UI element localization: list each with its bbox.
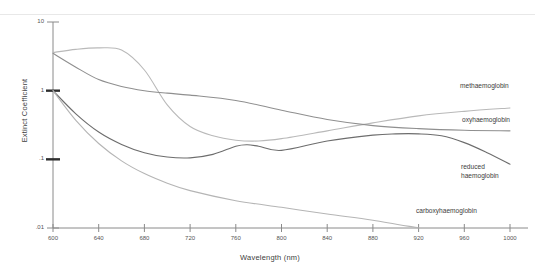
series-label-methaemoglobin: methaemoglobin <box>460 82 509 91</box>
x-axis-tick-label: 920 <box>399 235 439 241</box>
x-axis-tick-label: 960 <box>444 235 484 241</box>
x-axis-tick-label: 1000 <box>490 235 530 241</box>
series-line-carboxyhaemoglobin <box>53 91 419 228</box>
extinction-coefficient-plot <box>0 0 535 274</box>
x-axis-tick-label: 840 <box>307 235 347 241</box>
x-axis-tick-label: 600 <box>33 235 73 241</box>
y-axis-tick-label: 10 <box>20 18 44 24</box>
series-label-carboxyhaemoglobin: carboxyhaemoglobin <box>416 207 477 216</box>
series-line-reduced-haemoglobin <box>53 91 510 165</box>
x-axis-title: Wavelength (nm) <box>55 253 485 262</box>
series-label-reduced-haemoglobin: reducedhaemoglobin <box>461 163 499 180</box>
y-axis-tick-label: .01 <box>20 224 44 230</box>
series-line-methaemoglobin <box>53 48 510 141</box>
x-axis-tick-label: 800 <box>262 235 302 241</box>
series-line-oxyhaemoglobin <box>53 53 510 131</box>
x-axis-tick-label: 640 <box>79 235 119 241</box>
series-label-line-1: reduced <box>461 163 499 172</box>
x-axis-tick-label: 880 <box>353 235 393 241</box>
y-axis-title: Extinct Coefficient <box>20 46 29 176</box>
series-label-line-2: haemoglobin <box>461 172 499 181</box>
x-axis-tick-label: 680 <box>124 235 164 241</box>
x-axis-tick-label: 720 <box>170 235 210 241</box>
chart-figure: 101.1.01 6006406807207608008408809209601… <box>0 0 535 274</box>
x-axis-tick-label: 760 <box>216 235 256 241</box>
series-label-oxyhaemoglobin: oxyhaemoglobin <box>462 116 510 125</box>
